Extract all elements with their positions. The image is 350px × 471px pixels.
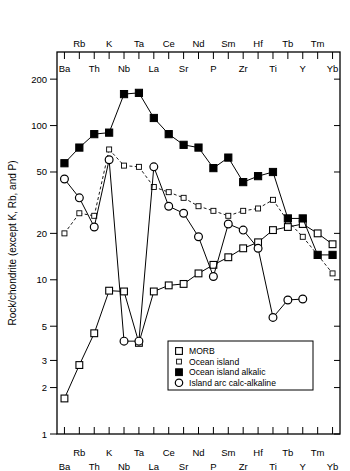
legend-marker-2 — [176, 369, 183, 376]
data-point-small-open-square — [226, 213, 231, 218]
data-point-open-circle — [150, 163, 158, 171]
y-tick-label-50: 50 — [36, 166, 47, 177]
legend-label-2: Ocean island alkalic — [189, 367, 266, 377]
x-label-top-Tb: Tb — [282, 38, 293, 49]
data-point-small-open-square — [211, 208, 216, 213]
series-line-1 — [64, 213, 79, 233]
x-label-bottom-Ti: Ti — [269, 461, 277, 471]
data-point-filled-square — [269, 168, 276, 175]
x-label-bottom-row2-Nd: Nd — [192, 447, 204, 458]
x-label-bottom-Yb: Yb — [327, 461, 339, 471]
x-label-bottom-row2-Sm: Sm — [221, 447, 235, 458]
x-label-bottom-row2-Hf: Hf — [253, 447, 263, 458]
data-point-filled-square — [195, 144, 202, 151]
data-point-filled-square — [61, 160, 68, 167]
series-line-3 — [109, 160, 124, 341]
y-axis-title: Rock/chondrite (except K, Rb, and P) — [7, 160, 18, 325]
legend-marker-0 — [176, 348, 183, 355]
x-label-bottom-row2-Ta: Ta — [134, 447, 145, 458]
data-point-open-square — [284, 224, 291, 231]
data-point-open-square — [91, 330, 98, 337]
series-line-0 — [79, 333, 94, 365]
data-point-filled-square — [106, 129, 113, 136]
data-point-open-circle — [75, 194, 83, 202]
data-point-open-square — [270, 227, 277, 234]
data-point-filled-square — [120, 90, 127, 97]
series-line-0 — [64, 365, 79, 398]
chart-svg: BaBaRbRbThThKKNbNbTaTaLaLaCeCeSrSrNdNdPP… — [0, 0, 350, 471]
data-point-open-square — [165, 282, 172, 289]
data-point-filled-square — [210, 164, 217, 171]
y-tick-label-1: 1 — [42, 429, 47, 440]
x-label-bottom-Nb: Nb — [118, 461, 130, 471]
x-label-top-Ce: Ce — [163, 38, 175, 49]
x-label-top-row2-Ti: Ti — [269, 63, 277, 74]
data-point-small-open-square — [270, 197, 275, 202]
data-point-open-square — [329, 241, 336, 248]
data-point-filled-square — [91, 131, 98, 138]
data-point-open-circle — [299, 295, 307, 303]
y-tick-label-5: 5 — [42, 321, 47, 332]
x-label-top-K: K — [106, 38, 113, 49]
data-point-open-circle — [239, 226, 247, 234]
data-point-small-open-square — [136, 164, 141, 169]
data-point-open-square — [314, 230, 321, 237]
data-point-open-circle — [224, 220, 232, 228]
x-label-bottom-Sr: Sr — [179, 461, 189, 471]
x-label-bottom-row2-Ce: Ce — [163, 447, 175, 458]
legend-marker-3 — [175, 379, 182, 386]
x-label-top-Sm: Sm — [221, 38, 235, 49]
data-point-filled-square — [254, 173, 261, 180]
data-point-small-open-square — [181, 195, 186, 200]
y-tick-label-200: 200 — [31, 74, 47, 85]
x-label-bottom-row2-Rb: Rb — [73, 447, 85, 458]
y-tick-label-10: 10 — [36, 274, 47, 285]
x-label-bottom-Y: Y — [300, 461, 307, 471]
data-point-small-open-square — [196, 204, 201, 209]
data-point-filled-square — [76, 144, 83, 151]
x-label-bottom-Zr: Zr — [239, 461, 248, 471]
data-point-open-circle — [254, 244, 262, 252]
data-point-filled-square — [165, 131, 172, 138]
series-line-3 — [213, 224, 228, 277]
x-label-top-Nd: Nd — [192, 38, 204, 49]
x-label-top-Ta: Ta — [134, 38, 145, 49]
data-point-open-circle — [180, 209, 188, 217]
data-point-open-circle — [120, 337, 128, 345]
data-point-filled-square — [314, 251, 321, 258]
data-point-filled-square — [150, 114, 157, 121]
series-line-3 — [258, 248, 273, 317]
x-label-top-Hf: Hf — [253, 38, 263, 49]
data-point-open-circle — [165, 202, 173, 210]
data-point-filled-square — [240, 179, 247, 186]
legend-label-1: Ocean island — [189, 357, 239, 367]
data-point-open-square — [180, 281, 187, 288]
data-point-open-square — [106, 287, 113, 294]
y-tick-label-2: 2 — [42, 382, 47, 393]
y-tick-label-20: 20 — [36, 228, 47, 239]
data-point-small-open-square — [300, 234, 305, 239]
x-label-top-row2-Sr: Sr — [179, 63, 189, 74]
spider-diagram-figure: BaBaRbRbThThKKNbNbTaTaLaLaCeCeSrSrNdNdPP… — [0, 0, 350, 471]
axis-layer: BaBaRbRbThThKKNbNbTaTaLaLaCeCeSrSrNdNdPP… — [7, 38, 340, 471]
data-point-open-circle — [135, 337, 143, 345]
y-tick-label-100: 100 — [31, 120, 47, 131]
data-point-small-open-square — [122, 163, 127, 168]
x-label-top-row2-Y: Y — [300, 63, 307, 74]
x-label-top-row2-P: P — [210, 63, 216, 74]
data-point-filled-square — [284, 215, 291, 222]
data-point-open-circle — [195, 233, 203, 241]
data-point-open-circle — [284, 296, 292, 304]
data-point-open-square — [225, 254, 232, 261]
data-point-small-open-square — [166, 190, 171, 195]
data-point-small-open-square — [256, 206, 261, 211]
data-point-small-open-square — [77, 211, 82, 216]
data-point-filled-square — [225, 154, 232, 161]
data-point-small-open-square — [62, 231, 67, 236]
legend-marker-1 — [177, 359, 182, 364]
x-label-bottom-row2-Tm: Tm — [311, 447, 325, 458]
x-label-top-row2-La: La — [149, 63, 160, 74]
series-line-0 — [94, 291, 109, 334]
x-label-bottom-La: La — [149, 461, 160, 471]
data-point-open-circle — [61, 175, 69, 183]
